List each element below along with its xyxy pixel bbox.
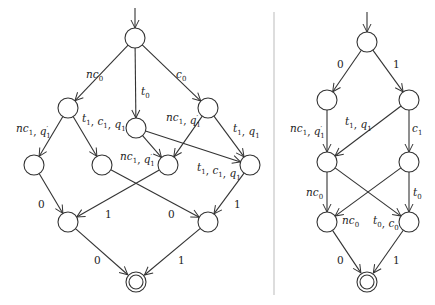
edge-label: nc1, q′1 — [120, 150, 155, 168]
transition-edge — [373, 230, 403, 273]
edge-label: nc1, q′1 — [290, 122, 325, 140]
edge-label: 1 — [393, 58, 400, 70]
state-node — [158, 155, 178, 175]
final-state-node — [126, 272, 146, 292]
state-node — [399, 90, 419, 110]
state-node — [58, 98, 78, 118]
state-node — [240, 155, 260, 175]
state-node — [399, 212, 419, 232]
edge-label: 1 — [105, 208, 112, 220]
edge-label: t1, c1, q1 — [197, 161, 241, 182]
edge-label: t1, c1, q1 — [82, 112, 126, 133]
edge-label: nc1, q′1 — [166, 111, 201, 129]
transition-edge — [75, 229, 127, 275]
transition-edge — [111, 170, 199, 218]
state-node — [198, 212, 218, 232]
final-state-node — [357, 272, 377, 292]
transition-edge — [373, 50, 403, 92]
edge-label: 0 — [38, 198, 45, 210]
edge-label: 0 — [337, 58, 344, 70]
state-node — [317, 90, 337, 110]
automata-diagram: nc0t0c0nc1, q′1t1, c1, q1nc1, q′1t1, c1,… — [0, 0, 435, 305]
state-node — [198, 98, 218, 118]
edge-label: t0 — [413, 186, 422, 201]
state-node — [125, 28, 145, 48]
edge-label: 0 — [337, 254, 344, 266]
edge-label: 0 — [168, 208, 175, 220]
edge-label: nc1, q′1 — [16, 122, 51, 140]
transition-edge — [333, 230, 361, 273]
state-node — [126, 118, 146, 138]
edge-label: 0 — [94, 254, 101, 266]
transition-edge — [146, 131, 241, 162]
state-node — [24, 155, 44, 175]
transition-edge — [75, 45, 128, 101]
state-node — [317, 212, 337, 232]
state-node — [317, 152, 337, 172]
edge-label: t0, c0 — [373, 214, 399, 232]
edge-label: t0 — [141, 85, 150, 100]
edge-label: nc0 — [342, 214, 359, 229]
transition-edge — [77, 170, 160, 217]
state-node — [399, 152, 419, 172]
transition-edge — [135, 48, 136, 118]
edge-label: 1 — [234, 198, 241, 210]
edge-label: c1 — [412, 122, 422, 137]
edge-label: t1, q1 — [233, 122, 260, 140]
edge-label: t1, q1 — [345, 115, 372, 133]
transition-edge — [144, 228, 200, 275]
edge-label: 1 — [393, 254, 400, 266]
edge-label: c0 — [176, 68, 186, 83]
transition-edge — [142, 45, 201, 101]
state-node — [357, 32, 377, 52]
state-node — [92, 155, 112, 175]
state-node — [58, 212, 78, 232]
transition-edge — [333, 50, 362, 92]
edge-label: 1 — [178, 254, 185, 266]
edge-label: nc0 — [306, 186, 323, 201]
